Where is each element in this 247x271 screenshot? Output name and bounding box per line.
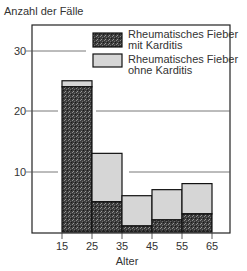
x-tick-55: 55 [176, 240, 188, 252]
bar-segment-without-carditis [92, 153, 122, 201]
x-axis-label: Alter [116, 255, 139, 267]
x-tick-45: 45 [146, 240, 158, 252]
x-tick-35: 35 [116, 240, 128, 252]
x-tick-25: 25 [86, 240, 98, 252]
bar-segment-without-carditis [152, 190, 182, 220]
bar-segment-with-carditis [92, 202, 122, 232]
bar-45-55 [152, 190, 182, 232]
bar-25-35 [92, 153, 122, 232]
y-axis-label: Anzahl der Fälle [4, 5, 84, 17]
y-tick-30: 30 [14, 45, 26, 57]
y-tick-20: 20 [14, 105, 26, 117]
bar-35-45 [122, 196, 152, 232]
histogram-chart: Anzahl der Fälle 30 20 10 Rheumatisches … [0, 0, 247, 271]
bar-segment-with-carditis [62, 87, 92, 232]
x-ticks: 152535455565 [56, 233, 218, 252]
legend: Rheumatisches Fieber mit Karditis Rheuma… [93, 28, 238, 76]
bars [62, 81, 212, 232]
bar-segment-with-carditis [152, 220, 182, 232]
bar-segment-with-carditis [122, 226, 152, 232]
y-tick-10: 10 [14, 166, 26, 178]
y-tick-labels: 30 20 10 [14, 45, 26, 178]
bar-15-25 [62, 81, 92, 232]
bar-segment-without-carditis [62, 81, 92, 87]
legend-label-2b: ohne Karditis [128, 64, 193, 76]
legend-swatch-with-carditis [93, 33, 122, 47]
legend-swatch-without-carditis [93, 54, 122, 67]
x-tick-15: 15 [56, 240, 68, 252]
x-tick-65: 65 [206, 240, 218, 252]
legend-label-1b: mit Karditis [128, 39, 183, 51]
bar-55-65 [182, 184, 212, 232]
bar-segment-without-carditis [122, 196, 152, 226]
bar-segment-with-carditis [182, 214, 212, 232]
bar-segment-without-carditis [182, 184, 212, 214]
